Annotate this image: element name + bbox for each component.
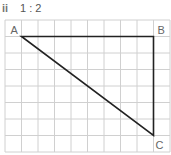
vertex-label-a: A <box>11 24 19 36</box>
vertex-label-b: B <box>158 24 165 36</box>
grid-diagram: ABC <box>0 0 171 155</box>
vertex-label-c: C <box>156 139 164 151</box>
